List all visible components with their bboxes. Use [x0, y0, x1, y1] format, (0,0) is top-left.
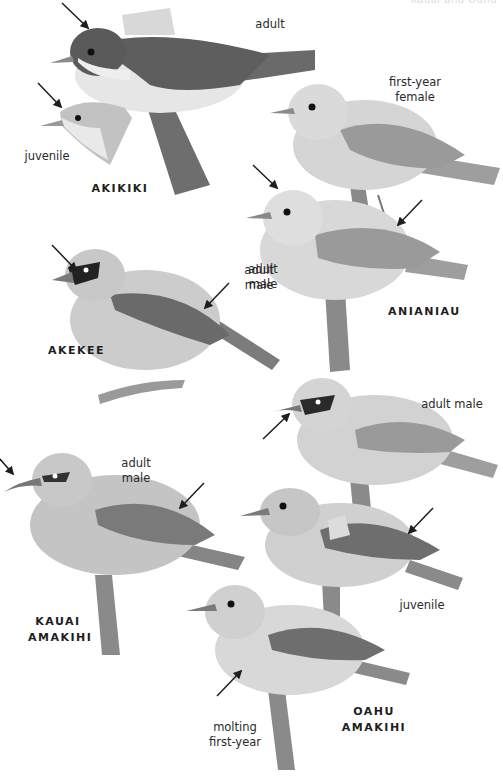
- oahu-amakihi-adult-male-label: adult male: [417, 397, 487, 412]
- species-name-oahu-amakihi: OAHU AMAKIHI: [328, 704, 420, 736]
- akekee-adult-male-label: adult male: [245, 262, 281, 292]
- kauai-amakihi-adult-male-label: adult male: [118, 456, 154, 486]
- bird-illustrations: [0, 0, 503, 777]
- akikiki-adult-label: adult: [255, 17, 285, 32]
- oahu-amakihi-molting-first-year-label: molting first-year: [205, 720, 265, 750]
- field-guide-page: Kauai and Oahu: [0, 0, 503, 777]
- species-name-akekee: AKEKEE: [48, 343, 102, 359]
- akikiki-adult-illustration: [50, 8, 315, 195]
- species-name-anianiau: ANIANIAU: [388, 304, 458, 320]
- oahu-amakihi-juvenile-label: juvenile: [397, 598, 447, 613]
- akikiki-juvenile-label: juvenile: [22, 149, 72, 164]
- species-name-akikiki: AKIKIKI: [90, 181, 150, 197]
- species-name-kauai-amakihi: KAUAI AMAKIHI: [28, 614, 88, 646]
- anianiau-first-year-female-label: first-year female: [385, 75, 445, 105]
